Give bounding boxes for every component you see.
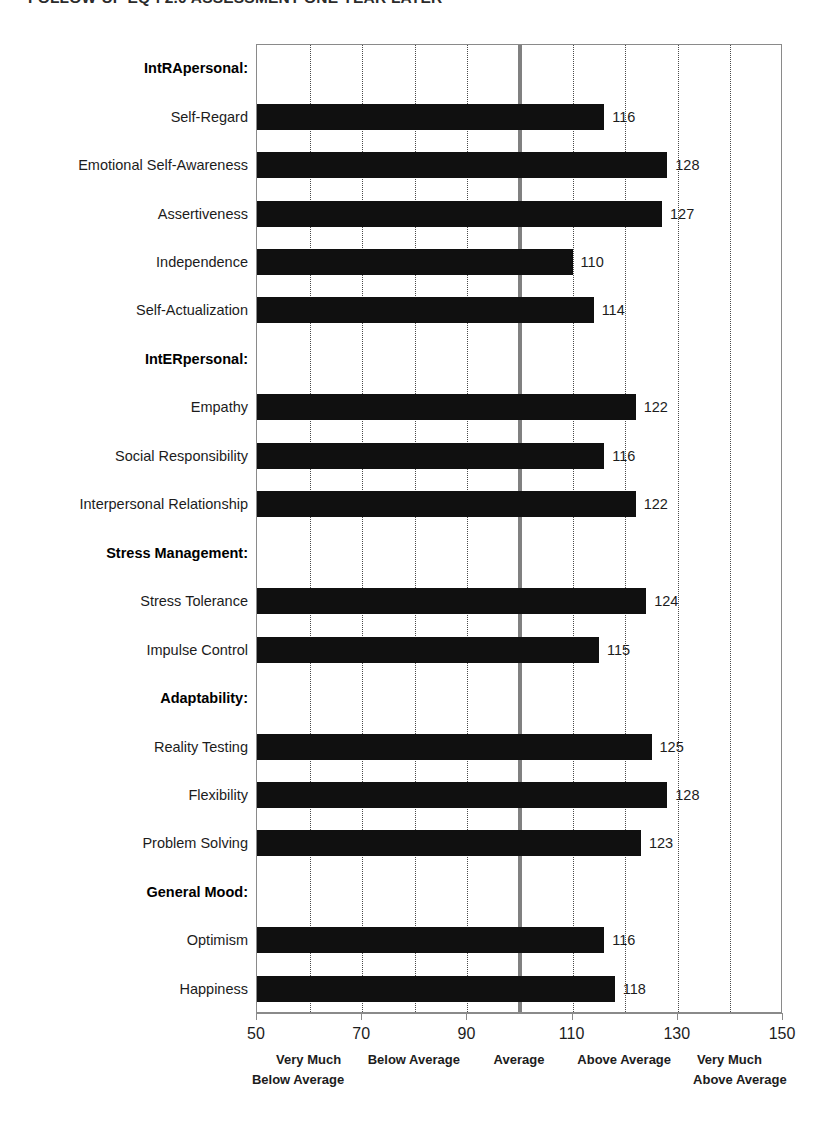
bar: [257, 249, 573, 275]
x-tick-label: 50: [247, 1025, 265, 1043]
bar: [257, 976, 615, 1002]
bar-row: Emotional Self-Awareness128: [0, 141, 824, 189]
bar-row: Social Responsibility116: [0, 432, 824, 480]
bar-row: Impulse Control115: [0, 625, 824, 673]
bar-group-heading-row: General Mood:: [0, 868, 824, 916]
bar-row-label: Impulse Control: [0, 642, 248, 658]
bar-row-label: Stress Tolerance: [0, 593, 248, 609]
bar-row-label: Interpersonal Relationship: [0, 496, 248, 512]
legend-band-label: Average: [494, 1052, 545, 1067]
group-heading-label: IntRApersonal:: [0, 60, 248, 76]
bar-row-label: Problem Solving: [0, 835, 248, 851]
bar-row: Empathy122: [0, 383, 824, 431]
legend-band-label: Below Average: [368, 1052, 460, 1067]
bar-row: Assertiveness127: [0, 189, 824, 237]
bar: [257, 927, 604, 953]
x-tick-label: 70: [352, 1025, 370, 1043]
bar-row-label: Flexibility: [0, 787, 248, 803]
x-tick-label: 130: [663, 1025, 690, 1043]
bar-row-label: Self-Regard: [0, 109, 248, 125]
bar: [257, 297, 594, 323]
bar-value-label: 110: [581, 254, 604, 270]
bar-row: Self-Regard116: [0, 92, 824, 140]
x-axis: [256, 1013, 782, 1014]
x-tick-110: [572, 1013, 573, 1020]
bar-row-label: Assertiveness: [0, 206, 248, 222]
bar: [257, 491, 636, 517]
x-tick-label: 150: [769, 1025, 796, 1043]
bar: [257, 201, 662, 227]
group-heading-label: General Mood:: [0, 884, 248, 900]
bar-row-label: Independence: [0, 254, 248, 270]
bar: [257, 104, 604, 130]
bar-row: Interpersonal Relationship122: [0, 480, 824, 528]
bar-rows-group: IntRApersonal:Self-Regard116Emotional Se…: [0, 44, 824, 1013]
bar-value-label: 128: [675, 787, 699, 803]
group-heading-label: IntERpersonal:: [0, 351, 248, 367]
bar-group-heading-row: IntERpersonal:: [0, 335, 824, 383]
x-tick-150: [782, 1013, 783, 1020]
bar: [257, 152, 667, 178]
bar-row-label: Self-Actualization: [0, 302, 248, 318]
bar-value-label: 116: [612, 109, 635, 125]
bar-row: Self-Actualization114: [0, 286, 824, 334]
bar-value-label: 116: [612, 448, 635, 464]
bar: [257, 588, 646, 614]
bar-value-label: 127: [670, 206, 694, 222]
x-tick-130: [677, 1013, 678, 1020]
legend-band-label-line2: Above Average: [693, 1072, 787, 1087]
bar-group-heading-row: Stress Management:: [0, 529, 824, 577]
bar-row: Flexibility128: [0, 771, 824, 819]
x-tick-90: [466, 1013, 467, 1020]
bar-value-label: 128: [675, 157, 699, 173]
bar-value-label: 124: [654, 593, 678, 609]
x-tick-50: [256, 1013, 257, 1020]
legend-band-label: Very Much: [697, 1052, 762, 1067]
bar-row-label: Emotional Self-Awareness: [0, 157, 248, 173]
bar-row-label: Social Responsibility: [0, 448, 248, 464]
group-heading-label: Adaptability:: [0, 690, 248, 706]
x-tick-label: 110: [559, 1025, 585, 1043]
bar-row-label: Happiness: [0, 981, 248, 997]
legend-band-label-line2: Below Average: [252, 1072, 344, 1087]
bar: [257, 394, 636, 420]
bar-row: Happiness118: [0, 965, 824, 1013]
bar-value-label: 125: [660, 739, 684, 755]
bar: [257, 734, 652, 760]
bar-row-label: Empathy: [0, 399, 248, 415]
bar-row: Optimism116: [0, 916, 824, 964]
bar: [257, 830, 641, 856]
bar-row: Problem Solving123: [0, 819, 824, 867]
page-title: FOLLOW-UP EQ-i 2.0 ASSESSMENT ONE YEAR L…: [28, 0, 442, 7]
bar-row: Stress Tolerance124: [0, 577, 824, 625]
x-tick-70: [361, 1013, 362, 1020]
bar: [257, 637, 599, 663]
bar-value-label: 114: [602, 302, 625, 318]
bar-value-label: 122: [644, 399, 668, 415]
bar-value-label: 115: [607, 642, 630, 658]
bar: [257, 443, 604, 469]
bar-value-label: 118: [623, 981, 646, 997]
legend-band-label: Above Average: [577, 1052, 671, 1067]
bar-row: Reality Testing125: [0, 722, 824, 770]
bar-group-heading-row: Adaptability:: [0, 674, 824, 722]
x-tick-label: 90: [457, 1025, 475, 1043]
bar-row-label: Optimism: [0, 932, 248, 948]
bar-group-heading-row: IntRApersonal:: [0, 44, 824, 92]
bar-row: Independence110: [0, 238, 824, 286]
legend-band-label: Very Much: [276, 1052, 341, 1067]
bar-row-label: Reality Testing: [0, 739, 248, 755]
bar-value-label: 122: [644, 496, 668, 512]
group-heading-label: Stress Management:: [0, 545, 248, 561]
bar-value-label: 123: [649, 835, 673, 851]
bar: [257, 782, 667, 808]
bar-value-label: 116: [612, 932, 635, 948]
